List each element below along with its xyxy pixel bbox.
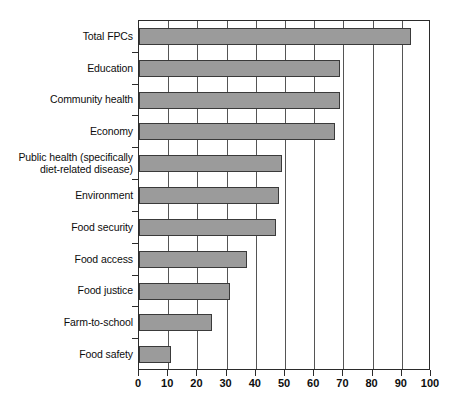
bar-environment — [139, 187, 279, 204]
bar-chart: Total FPCsEducationCommunity healthEcono… — [0, 0, 458, 409]
x-tick-label-70: 70 — [336, 376, 348, 390]
bar-track — [139, 307, 431, 339]
bar-track — [139, 116, 431, 148]
bar-track — [139, 276, 431, 308]
y-axis-label-economy: Economy — [0, 125, 133, 137]
x-tick-label-90: 90 — [395, 376, 407, 390]
bar-community-health — [139, 92, 340, 109]
bar-food-access — [139, 251, 247, 268]
y-axis-label-environment: Environment — [0, 189, 133, 201]
x-tick-label-30: 30 — [219, 376, 231, 390]
x-tick-label-50: 50 — [278, 376, 290, 390]
bar-farm-to-school — [139, 314, 212, 331]
plot-area — [138, 20, 430, 370]
bar-track — [139, 212, 431, 244]
x-tick-label-100: 100 — [421, 376, 439, 390]
bar-food-safety — [139, 346, 171, 363]
bar-track — [139, 339, 431, 371]
bar-economy — [139, 123, 335, 140]
x-tick-label-80: 80 — [365, 376, 377, 390]
x-axis-tick-labels: 0102030405060708090100 — [0, 376, 458, 394]
bar-track — [139, 244, 431, 276]
x-tick-label-20: 20 — [190, 376, 202, 390]
bar-track — [139, 85, 431, 117]
y-axis-label-food-access: Food access — [0, 253, 133, 265]
bar-track — [139, 53, 431, 85]
y-axis-label-food-justice: Food justice — [0, 284, 133, 296]
y-axis-label-community-health: Community health — [0, 93, 133, 105]
y-axis-label-total-fpcs: Total FPCs — [0, 30, 133, 42]
bar-education — [139, 60, 340, 77]
y-axis-label-food-security: Food security — [0, 221, 133, 233]
y-axis-label-food-safety: Food safety — [0, 348, 133, 360]
y-axis-label-public-health-specifically-diet-related-disease: Public health (specifically diet-related… — [0, 151, 133, 175]
bar-total-fpcs — [139, 28, 411, 45]
bar-track — [139, 21, 431, 53]
bar-track — [139, 148, 431, 180]
y-axis-category-labels: Total FPCsEducationCommunity healthEcono… — [0, 20, 133, 370]
x-tick-label-60: 60 — [307, 376, 319, 390]
bar-food-security — [139, 219, 276, 236]
bar-food-justice — [139, 283, 230, 300]
bar-public-health-specifically-diet-related-disease — [139, 155, 282, 172]
y-axis-label-farm-to-school: Farm-to-school — [0, 316, 133, 328]
x-tick-label-0: 0 — [135, 376, 141, 390]
x-tick-label-40: 40 — [249, 376, 261, 390]
bar-track — [139, 180, 431, 212]
y-axis-label-education: Education — [0, 62, 133, 74]
x-tick-label-10: 10 — [161, 376, 173, 390]
